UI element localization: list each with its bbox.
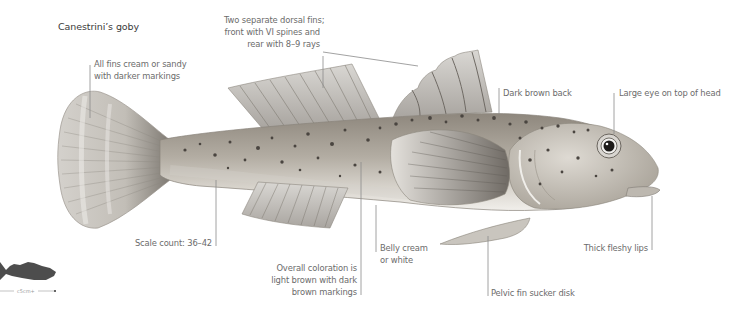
label-dorsal-line2: front with VI spines and [224,26,320,38]
label-dorsal-fins: Two separate dorsal fins; front with VI … [224,14,320,50]
front-dorsal-fin [393,50,492,118]
label-belly-line1: Belly cream [380,242,428,254]
anal-fin [242,182,348,228]
label-fins-line1: All fins cream or sandy [94,58,186,70]
label-scale-count: Scale count: 36–42 [110,237,212,249]
lips [626,187,660,197]
fish-illustration [0,0,736,319]
caudal-fin [58,91,170,228]
label-belly-line2: or white [380,254,428,266]
goby-silhouette-icon [0,262,56,280]
goby-illustration-plate: Canestrini’s goby All fins cream or sand… [0,0,736,319]
scale-length-text: c5cm+ [17,288,35,294]
label-fins: All fins cream or sandy with darker mark… [94,58,186,82]
label-belly: Belly cream or white [380,242,428,266]
label-back: Dark brown back [503,87,572,99]
scale-end-dot [54,290,56,292]
label-fins-line2: with darker markings [94,70,186,82]
label-coloration-line1: Overall coloration is [255,262,357,274]
label-eye: Large eye on top of head [619,87,721,99]
fish-head [508,123,660,209]
species-title: Canestrini’s goby [58,21,139,32]
leader-dorsal-front [323,52,418,66]
label-coloration: Overall coloration is light brown with d… [255,262,357,298]
rear-dorsal-fin [228,64,380,128]
pelvic-fin [440,218,530,245]
label-lips: Thick fleshy lips [560,242,648,254]
label-coloration-line3: brown markings [255,286,357,298]
label-dorsal-line3: rear with 8–9 rays [224,38,320,50]
label-dorsal-line1: Two separate dorsal fins; [224,14,320,26]
label-coloration-line2: light brown with dark [255,274,357,286]
label-pelvic-fin: Pelvic fin sucker disk [491,287,575,299]
